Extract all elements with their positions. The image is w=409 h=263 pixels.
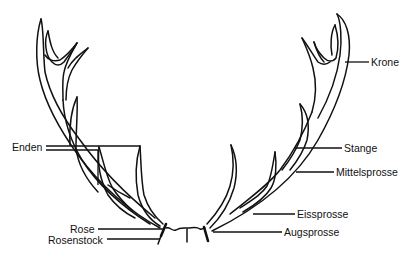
label-augsprosse: Augsprosse bbox=[284, 226, 339, 238]
label-enden: Enden bbox=[12, 141, 42, 153]
label-rosenstock: Rosenstock bbox=[48, 234, 103, 246]
label-krone: Krone bbox=[371, 56, 399, 68]
label-eissprosse: Eissprosse bbox=[297, 208, 348, 220]
left-antler bbox=[37, 19, 163, 228]
right-antler bbox=[207, 14, 349, 231]
label-mittelsprosse: Mittelsprosse bbox=[336, 166, 398, 178]
label-stange: Stange bbox=[344, 142, 377, 154]
skull-base bbox=[158, 224, 208, 244]
antler-diagram bbox=[0, 0, 409, 263]
